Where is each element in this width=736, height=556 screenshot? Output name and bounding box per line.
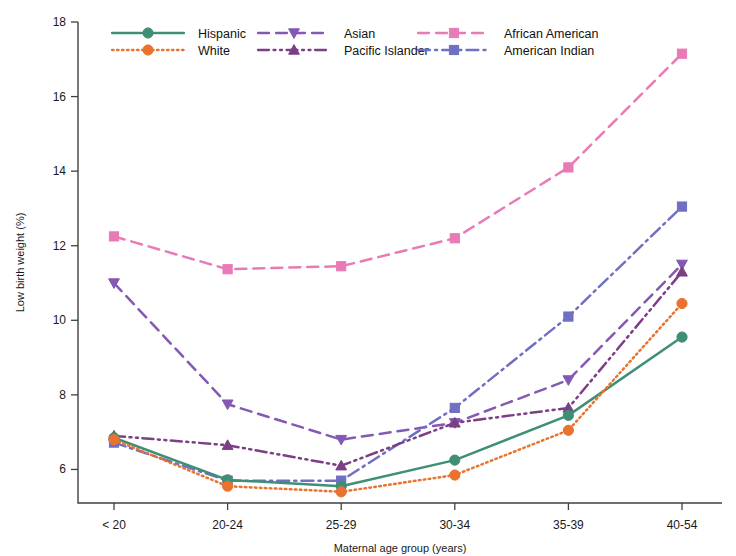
legend-marker <box>449 45 458 54</box>
legend-item-white[interactable]: White <box>112 44 230 58</box>
x-axis-ticks: < 2020-2425-2930-3435-3940-54 <box>102 503 698 532</box>
y-tick-label: 6 <box>59 462 66 476</box>
legend-label: Hispanic <box>198 27 246 41</box>
y-tick-label: 16 <box>53 90 67 104</box>
series-african-american <box>109 49 686 274</box>
data-point <box>337 262 346 271</box>
series-line <box>114 272 682 466</box>
legend-item-hispanic[interactable]: Hispanic <box>112 27 246 41</box>
data-point <box>450 403 459 412</box>
legend-label: African American <box>504 27 599 41</box>
series-line <box>114 54 682 270</box>
series-line <box>114 337 682 486</box>
data-point <box>563 425 573 435</box>
y-tick-label: 14 <box>53 164 67 178</box>
x-tick-label: 25-29 <box>326 518 357 532</box>
x-tick-label: 20-24 <box>212 518 243 532</box>
legend-label: White <box>198 44 230 58</box>
legend-label: American Indian <box>504 44 594 58</box>
legend-item-american-indian[interactable]: American Indian <box>418 44 594 58</box>
series-asian <box>109 260 688 445</box>
legend-marker <box>143 28 153 38</box>
data-point <box>563 410 573 420</box>
x-tick-label: < 20 <box>102 518 126 532</box>
x-tick-label: 35-39 <box>553 518 584 532</box>
y-tick-label: 18 <box>53 15 67 29</box>
x-tick-label: 40-54 <box>667 518 698 532</box>
series-line <box>114 207 682 481</box>
legend-item-pacific-islander[interactable]: Pacific Islander <box>258 44 429 58</box>
series-hispanic <box>109 332 687 491</box>
y-tick-label: 10 <box>53 313 67 327</box>
data-point <box>677 49 686 58</box>
legend-label: Pacific Islander <box>344 44 429 58</box>
data-point <box>336 487 346 497</box>
y-axis-title: Low birth weight (%) <box>14 213 26 313</box>
line-chart-canvas: 681012141618Low birth weight (%)< 2020-2… <box>0 0 736 556</box>
data-point <box>677 202 686 211</box>
data-point <box>109 232 118 241</box>
data-point <box>450 234 459 243</box>
x-tick-label: 30-34 <box>439 518 470 532</box>
data-point <box>677 298 687 308</box>
data-point <box>450 470 460 480</box>
y-tick-label: 8 <box>59 388 66 402</box>
legend-marker <box>449 28 458 37</box>
legend-marker <box>143 45 153 55</box>
data-point <box>564 163 573 172</box>
data-point <box>677 266 688 276</box>
data-point <box>223 481 233 491</box>
data-point <box>223 265 232 274</box>
legend: HispanicWhiteAsianPacific IslanderAfrica… <box>112 27 599 58</box>
data-point <box>563 376 574 386</box>
legend-item-asian[interactable]: Asian <box>258 27 375 41</box>
data-point <box>677 332 687 342</box>
series-line <box>114 264 682 439</box>
data-point <box>109 435 119 445</box>
y-tick-label: 12 <box>53 239 67 253</box>
series-line <box>114 304 682 492</box>
legend-item-african-american[interactable]: African American <box>418 27 599 41</box>
data-point <box>450 455 460 465</box>
chart-figure: 681012141618Low birth weight (%)< 2020-2… <box>0 0 736 556</box>
y-axis-ticks: 681012141618 <box>53 15 78 476</box>
x-axis-title: Maternal age group (years) <box>334 542 467 554</box>
data-point <box>564 312 573 321</box>
legend-label: Asian <box>344 27 375 41</box>
series-american-indian <box>109 202 686 485</box>
